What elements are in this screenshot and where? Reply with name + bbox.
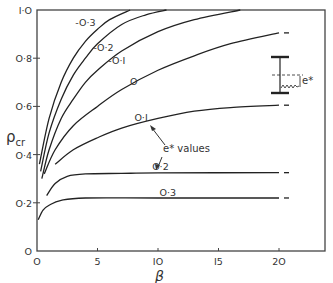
x-tick-label: I5: [214, 256, 223, 267]
y-tick-label: O·8: [15, 53, 32, 64]
curve-e-star-0.1: [55, 105, 279, 164]
plot-frame: [37, 10, 325, 251]
x-axis-label: β: [154, 268, 164, 283]
curve-e-star-0.3: [38, 198, 279, 220]
x-tick-label: IO: [153, 256, 163, 267]
x-tick-label: O: [33, 256, 40, 267]
e-star-values-annotation: e* values: [150, 125, 210, 170]
curve-label: -O·3: [75, 17, 95, 28]
curve-label: O·2: [152, 161, 169, 172]
curve-e-star--0.2: [41, 10, 167, 171]
x-tick-label: 2O: [272, 256, 286, 267]
curve-labels: -O·3-O·2-O·IOO·IO·2O·3: [75, 17, 176, 198]
y-tick-label: I·O: [19, 5, 32, 16]
x-tick-label: 5: [94, 256, 100, 267]
inset-e-star-label: e*: [302, 75, 313, 86]
i-beam-inset-icon: e*: [271, 57, 313, 93]
y-axis-label: ρcr: [6, 128, 26, 148]
curve-label: O·3: [159, 187, 176, 198]
y-tick-label: O: [25, 246, 32, 257]
y-tick-label: O·6: [15, 101, 32, 112]
curve-label: -O·2: [93, 42, 113, 53]
curve-e-star--0.1: [42, 10, 240, 179]
chart: OO·2O·4O·6O·8I·O O5IOI52O -O·3-O·2-O·IOO…: [0, 0, 333, 283]
curve-label: O: [130, 76, 137, 87]
e-star-values-label: e* values: [163, 143, 210, 154]
y-tick-label: O·4: [15, 150, 32, 161]
curve-e-star--0.3: [39, 10, 130, 164]
y-axis: OO·2O·4O·6O·8I·O: [15, 5, 40, 257]
curve-e-star-0: [44, 33, 279, 174]
curve-label: -O·I: [108, 55, 125, 66]
curve-label: O·I: [134, 112, 147, 123]
y-tick-label: O·2: [15, 198, 32, 209]
